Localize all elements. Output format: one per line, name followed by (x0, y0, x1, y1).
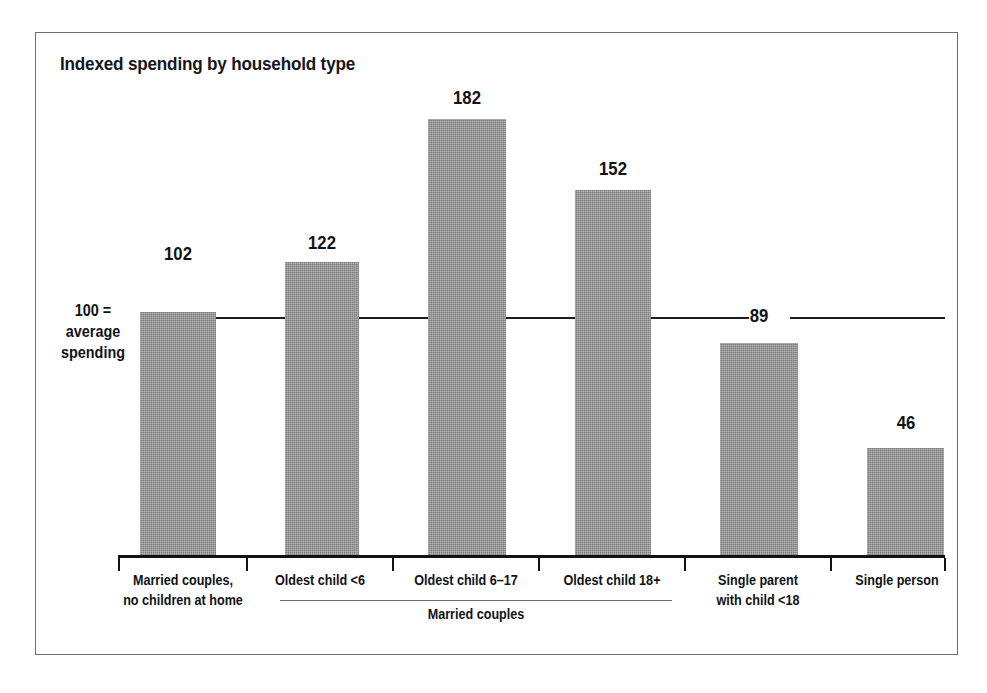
x-axis-label-0-line-1: no children at home (117, 590, 248, 610)
reference-line-label: 100 = average spending (51, 300, 136, 363)
bar-single-parent-child-under-18[interactable] (720, 343, 798, 556)
x-axis-label-single-person: Single person (839, 570, 956, 590)
bar-value-label-0: 102 (143, 243, 213, 265)
bar-oldest-child-6-to-17[interactable] (428, 119, 506, 556)
bar-value-label-4: 89 (724, 305, 794, 327)
x-axis-tick-4 (684, 558, 686, 571)
x-axis-label-oldest-child-6-to-17: Oldest child 6–17 (401, 570, 531, 590)
chart-title: Indexed spending by household type (60, 53, 355, 75)
x-axis-label-4-line-0: Single parent (693, 570, 823, 590)
x-axis-label-single-parent-child-under-18: Single parent with child <18 (693, 570, 823, 611)
x-axis-label-0-line-0: Married couples, (117, 570, 248, 590)
x-axis-tick-5 (830, 558, 832, 571)
x-axis-label-1-line-0: Oldest child <6 (255, 570, 385, 590)
x-axis-line (118, 555, 945, 558)
bar-oldest-child-under-6[interactable] (285, 262, 359, 556)
group-bracket-label: Married couples (300, 606, 653, 622)
reference-line-label-word-spending: spending (51, 342, 136, 363)
x-axis-label-oldest-child-18-plus: Oldest child 18+ (547, 570, 677, 590)
x-axis-tick-2 (392, 558, 394, 571)
x-axis-tick-1 (246, 558, 248, 571)
bar-single-person[interactable] (867, 448, 944, 556)
reference-line-label-word-average: average (51, 321, 136, 342)
x-axis-label-oldest-child-under-6: Oldest child <6 (255, 570, 385, 590)
reference-line-segment-right (790, 317, 945, 319)
x-axis-label-3-line-0: Oldest child 18+ (547, 570, 677, 590)
bar-value-label-3: 152 (578, 158, 648, 180)
x-axis-tick-6 (944, 558, 946, 571)
bar-oldest-child-18-plus[interactable] (575, 190, 651, 556)
x-axis-label-5-line-0: Single person (839, 570, 956, 590)
x-axis-tick-3 (538, 558, 540, 571)
x-axis-label-married-couples-no-children: Married couples, no children at home (117, 570, 248, 611)
x-axis-tick-0 (118, 558, 120, 571)
x-axis-label-4-line-1: with child <18 (693, 590, 823, 610)
x-axis-label-2-line-0: Oldest child 6–17 (401, 570, 531, 590)
bar-value-label-1: 122 (287, 232, 357, 254)
reference-line-label-value: 100 = (51, 300, 136, 321)
bar-value-label-2: 182 (432, 87, 502, 109)
group-bracket-line (280, 600, 672, 601)
chart-page: Indexed spending by household type 100 =… (0, 0, 987, 693)
bar-value-label-5: 46 (871, 412, 941, 434)
bar-married-couples-no-children[interactable] (140, 312, 216, 556)
